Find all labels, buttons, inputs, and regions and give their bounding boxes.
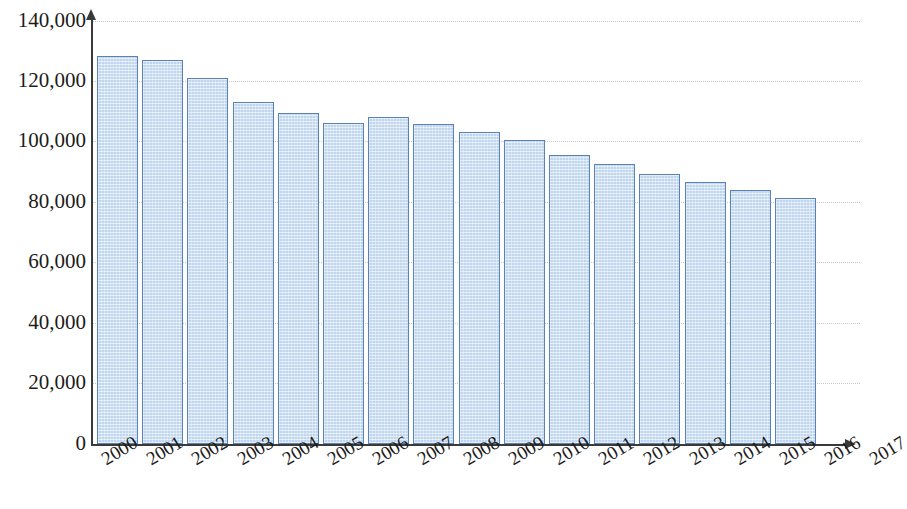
- bar-2003: [233, 102, 274, 444]
- bar-2008: [459, 132, 500, 444]
- bar-2009: [504, 140, 545, 444]
- bar-2013: [685, 182, 726, 444]
- y-axis-line: [91, 18, 93, 446]
- bar-2014: [730, 190, 771, 444]
- bar-2012: [639, 174, 680, 444]
- bar-2002: [187, 78, 228, 444]
- bar-2006: [368, 117, 409, 444]
- bar-2000: [97, 56, 138, 444]
- bar-2005: [323, 123, 364, 444]
- y-axis-arrow-icon: [86, 9, 96, 20]
- bar-2011: [594, 164, 635, 444]
- bar-2007: [413, 124, 454, 444]
- bar-2015: [775, 198, 816, 444]
- bar-2010: [549, 155, 590, 444]
- bar-2004: [278, 113, 319, 444]
- bar-2001: [142, 60, 183, 444]
